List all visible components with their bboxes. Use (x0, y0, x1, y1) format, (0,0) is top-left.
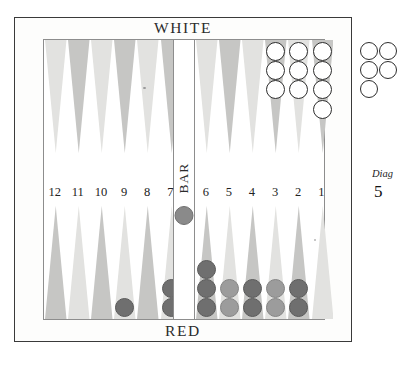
bar-label: BAR (176, 163, 192, 194)
borne-off-checker-white[interactable] (379, 61, 397, 79)
point-10[interactable] (91, 40, 113, 153)
checker-white[interactable] (313, 100, 332, 119)
diagram-caption-number: 5 (372, 182, 402, 202)
point-11[interactable] (68, 40, 90, 153)
borne-off-checker-white[interactable] (360, 61, 378, 79)
point-9[interactable] (114, 40, 136, 153)
checker-red[interactable] (220, 298, 239, 317)
diagram-caption: Diag 5 (372, 168, 402, 202)
checker-red[interactable] (197, 298, 216, 317)
point-5[interactable] (219, 40, 241, 153)
borne-off-checker-white[interactable] (379, 42, 397, 60)
point-8[interactable] (137, 40, 159, 153)
diagram-caption-word: Diag (372, 168, 402, 179)
backgammon-board: WHITE RED BAR 121110987654321 (14, 17, 352, 342)
point-11[interactable] (68, 206, 90, 319)
outer-board-left (44, 40, 173, 319)
scan-speck (314, 239, 316, 241)
borne-off-checker-white[interactable] (360, 42, 378, 60)
point-1[interactable] (312, 206, 334, 319)
point-6[interactable] (196, 40, 218, 153)
checker-white[interactable] (313, 61, 332, 80)
bar[interactable]: BAR (173, 40, 195, 319)
point-12[interactable] (45, 40, 67, 153)
white-player-label: WHITE (15, 19, 351, 37)
checker-red[interactable] (197, 279, 216, 298)
borne-off-white-checkers[interactable] (360, 42, 400, 104)
playing-area: BAR (43, 39, 325, 320)
scan-speck (143, 87, 146, 89)
checker-white[interactable] (313, 42, 332, 61)
point-10[interactable] (91, 206, 113, 319)
checker-red[interactable] (197, 260, 216, 279)
point-4[interactable] (242, 40, 264, 153)
red-player-label: RED (15, 322, 351, 340)
home-board-right (195, 40, 324, 319)
checker-white[interactable] (313, 80, 332, 99)
bar-checker-red[interactable] (175, 206, 194, 225)
point-12[interactable] (45, 206, 67, 319)
checker-red[interactable] (243, 279, 262, 298)
checker-red[interactable] (220, 279, 239, 298)
borne-off-checker-white[interactable] (360, 80, 378, 98)
point-8[interactable] (137, 206, 159, 319)
